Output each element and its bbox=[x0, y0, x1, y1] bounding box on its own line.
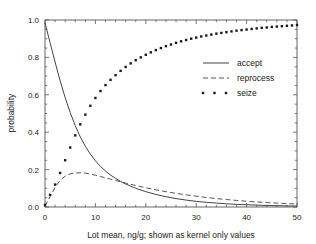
data-point bbox=[109, 79, 111, 81]
data-point bbox=[104, 84, 106, 86]
data-point bbox=[240, 29, 242, 31]
data-point bbox=[200, 35, 202, 37]
data-point bbox=[99, 90, 101, 92]
y-tick-label: 0.8 bbox=[28, 53, 40, 62]
legend-marker bbox=[213, 92, 215, 94]
data-point bbox=[281, 25, 283, 27]
y-tick-label: 0.4 bbox=[28, 128, 40, 137]
data-point bbox=[145, 54, 147, 56]
data-point bbox=[255, 27, 257, 29]
data-point bbox=[49, 194, 51, 196]
data-point bbox=[94, 97, 96, 99]
y-tick-label: 0.2 bbox=[28, 166, 40, 175]
data-point bbox=[261, 27, 263, 29]
data-point bbox=[225, 31, 227, 33]
data-point bbox=[220, 32, 222, 34]
y-axis-title: probability bbox=[6, 93, 16, 132]
data-point bbox=[185, 39, 187, 41]
data-point bbox=[140, 56, 142, 58]
data-point bbox=[74, 134, 76, 136]
x-tick-label: 50 bbox=[293, 213, 302, 222]
data-point bbox=[155, 49, 157, 51]
legend-marker bbox=[225, 92, 227, 94]
y-tick-label: 1.0 bbox=[28, 16, 40, 25]
data-point bbox=[89, 105, 91, 107]
chart-figure: 01020304050 0.00.20.40.60.81.0 acceptrep… bbox=[0, 0, 316, 244]
data-point bbox=[195, 36, 197, 38]
data-point bbox=[64, 159, 66, 161]
x-axis-title: Lot mean, ng/g; shown as kernel only val… bbox=[87, 230, 255, 240]
data-point bbox=[114, 74, 116, 76]
data-point bbox=[59, 172, 61, 174]
data-point bbox=[170, 43, 172, 45]
data-point bbox=[276, 25, 278, 27]
data-point bbox=[250, 28, 252, 30]
x-tick-label: 40 bbox=[242, 213, 251, 222]
data-point bbox=[215, 32, 217, 34]
data-point bbox=[165, 45, 167, 47]
data-point bbox=[119, 70, 121, 72]
data-point bbox=[296, 24, 298, 26]
probability-vs-lot-mean-chart: 01020304050 0.00.20.40.60.81.0 acceptrep… bbox=[0, 0, 316, 244]
legend-marker bbox=[202, 92, 204, 94]
data-point bbox=[54, 183, 56, 185]
data-point bbox=[180, 40, 182, 42]
data-point bbox=[245, 28, 247, 30]
data-point bbox=[291, 24, 293, 26]
legend-label: seize bbox=[237, 88, 257, 98]
x-tick-label: 30 bbox=[192, 213, 201, 222]
y-tick-label: 0.0 bbox=[28, 203, 40, 212]
data-point bbox=[84, 113, 86, 115]
data-point bbox=[175, 42, 177, 44]
x-tick-label: 0 bbox=[43, 213, 48, 222]
x-tick-label: 20 bbox=[141, 213, 150, 222]
legend-label: reprocess bbox=[237, 73, 274, 83]
data-point bbox=[235, 29, 237, 31]
data-point bbox=[286, 25, 288, 27]
data-point bbox=[210, 33, 212, 35]
data-point bbox=[230, 30, 232, 32]
x-tick-label: 10 bbox=[91, 213, 100, 222]
y-tick-label: 0.6 bbox=[28, 91, 40, 100]
data-point bbox=[266, 26, 268, 28]
data-point bbox=[124, 66, 126, 68]
data-point bbox=[205, 34, 207, 36]
data-point bbox=[190, 38, 192, 40]
data-point bbox=[271, 26, 273, 28]
data-point bbox=[135, 59, 137, 61]
legend-label: accept bbox=[237, 58, 263, 68]
data-point bbox=[160, 47, 162, 49]
data-point bbox=[150, 51, 152, 53]
data-point bbox=[69, 146, 71, 148]
data-point bbox=[79, 123, 81, 125]
data-point bbox=[129, 62, 131, 64]
data-point bbox=[44, 204, 46, 206]
